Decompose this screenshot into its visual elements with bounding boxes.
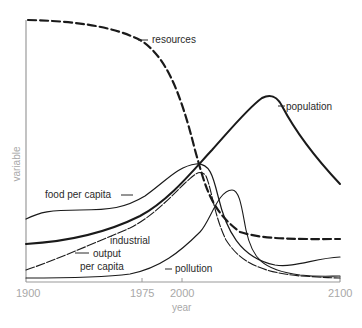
tick-label-1975: 1975 [130, 287, 154, 299]
tick-label-1900: 1900 [16, 287, 40, 299]
tick-label-2100: 2100 [328, 287, 352, 299]
label-food-per-capita: food per capita [45, 189, 112, 200]
label-resources: resources [152, 34, 196, 45]
x-axis-label: year [172, 302, 192, 313]
series-population [26, 96, 340, 244]
series-food-per-capita [26, 164, 340, 266]
label-industrial-3: per capita [80, 261, 124, 272]
label-population: population [286, 101, 332, 112]
chart: 1900 1975 2000 2100 year variable resour… [0, 0, 362, 328]
label-industrial-2: output [93, 248, 121, 259]
label-industrial-1: industrial [110, 235, 150, 246]
y-axis-label: variable [11, 146, 22, 181]
label-pollution: pollution [175, 263, 212, 274]
tick-label-2000: 2000 [170, 287, 194, 299]
series-resources [28, 20, 340, 239]
